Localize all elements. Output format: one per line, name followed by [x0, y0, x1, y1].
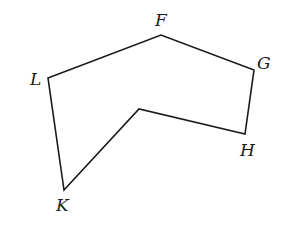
vertex-label-l: L — [29, 69, 41, 89]
vertex-labels: F G H K L — [29, 10, 271, 215]
polygon-fghkl — [48, 35, 254, 190]
vertex-label-f: F — [154, 10, 168, 30]
vertex-label-g: G — [257, 53, 271, 73]
vertex-label-k: K — [55, 195, 70, 215]
polygon-diagram: F G H K L — [0, 0, 283, 228]
vertex-label-h: H — [239, 140, 256, 160]
